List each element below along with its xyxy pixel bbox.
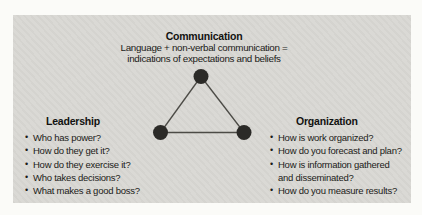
leadership-node — [153, 125, 168, 140]
communication-line2: indications of expectations and beliefs — [49, 53, 359, 64]
communication-line1: Language + non-verbal communication = — [49, 42, 359, 53]
list-item: •Who takes decisions? — [25, 171, 155, 184]
list-item-text: How do you measure results? — [278, 185, 397, 196]
bullet-icon: • — [25, 171, 28, 184]
organization-list: •How is work organized? •How do you fore… — [270, 131, 412, 197]
list-item: •How is work organized? — [270, 131, 412, 144]
bullet-icon: • — [25, 144, 28, 157]
list-item-text: What makes a good boss? — [33, 185, 140, 196]
list-item-text: How do you forecast and plan? — [278, 145, 402, 156]
list-item: •How do you measure results? — [270, 184, 412, 197]
bullet-icon: • — [270, 184, 273, 197]
diagram-panel: Communication Language + non-verbal comm… — [13, 15, 411, 203]
list-item: •How do they get it? — [25, 144, 155, 157]
list-item: •How do you forecast and plan? — [270, 144, 412, 157]
list-item: •How do they exercise it? — [25, 158, 155, 171]
bullet-icon: • — [25, 184, 28, 197]
bullet-icon: • — [270, 158, 273, 171]
list-item: •Who has power? — [25, 131, 155, 144]
bullet-icon: • — [270, 144, 273, 157]
list-item-text: How is information gathered and dissemin… — [278, 159, 390, 183]
organization-title: Organization — [296, 115, 412, 128]
communication-title: Communication — [49, 30, 359, 42]
bullet-icon: • — [25, 158, 28, 171]
list-item: •What makes a good boss? — [25, 184, 155, 197]
edge-communication-organization — [201, 77, 244, 133]
scan-page: { "figure": { "communication": { "title"… — [0, 0, 422, 215]
list-item-text: Who takes decisions? — [33, 172, 120, 183]
organization-block: Organization •How is work organized? •Ho… — [270, 115, 412, 197]
list-item-text: How do they get it? — [33, 145, 110, 156]
organization-node — [237, 125, 252, 140]
bullet-icon: • — [270, 131, 273, 144]
communication-block: Communication Language + non-verbal comm… — [49, 30, 359, 64]
list-item: •How is information gathered and dissemi… — [270, 158, 412, 185]
communication-node — [194, 69, 209, 84]
list-item-text: How do they exercise it? — [33, 159, 131, 170]
leadership-block: Leadership •Who has power? •How do they … — [25, 115, 155, 197]
leadership-title: Leadership — [46, 115, 155, 128]
list-item-text: How is work organized? — [278, 132, 373, 143]
bullet-icon: • — [25, 131, 28, 144]
list-item-text: Who has power? — [33, 132, 101, 143]
leadership-list: •Who has power? •How do they get it? •Ho… — [25, 131, 155, 197]
edge-communication-leadership — [161, 77, 202, 133]
